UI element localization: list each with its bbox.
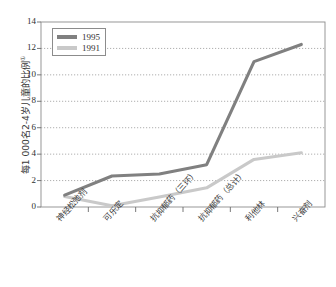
legend-label-1995: 1995: [82, 32, 100, 42]
legend-item-1995: 1995: [57, 31, 100, 42]
legend-label-1991: 1991: [82, 43, 100, 53]
legend-swatch-1991: [57, 46, 77, 50]
legend-swatch-1995: [57, 35, 77, 39]
chart-legend: 1995 1991: [52, 28, 106, 56]
plot-area: [0, 0, 336, 287]
legend-item-1991: 1991: [57, 42, 100, 53]
series-line-1995: [65, 44, 302, 195]
chart-figure: 每1 000名2-4岁儿童的比例① 02468101214 神经松弛剂可乐定抗抑…: [0, 0, 336, 287]
